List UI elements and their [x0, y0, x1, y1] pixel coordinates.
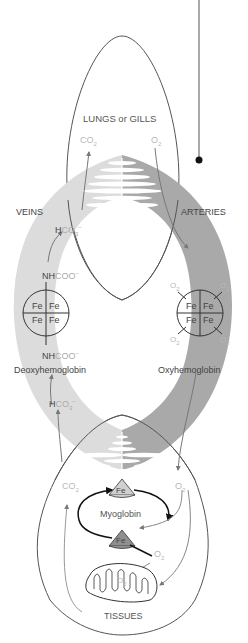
oxyhemoglobin-label: Oxyhemoglobin [158, 366, 221, 375]
oxy-o2-br: O2 [220, 336, 230, 346]
oxy-o2-tr: O2 [220, 282, 230, 292]
o2-free-label: O2 [154, 550, 164, 561]
o2-tissues-label: O2 [175, 482, 185, 493]
veins-label: VEINS [16, 208, 43, 217]
oxy-fe-bl: Fe [186, 316, 197, 325]
myo-fe-top-label: Fe [116, 487, 125, 495]
myo-fe-bottom-label: Fe [116, 537, 125, 545]
arteries-label: ARTERIES [181, 208, 226, 217]
pointer-dot [196, 157, 203, 164]
oxy-fe-br: Fe [203, 316, 214, 325]
tissues-label: TISSUES [104, 612, 143, 621]
myoglobin-label: Myoglobin [100, 510, 141, 519]
oxy-o2-bl: O2 [170, 336, 180, 346]
co2-lungs-label: CO2 [80, 136, 97, 147]
lungs-label: LUNGS or GILLS [83, 114, 156, 124]
oxyhemoglobin-symbol [177, 290, 223, 336]
hco3-upper-label: HCO3− [55, 224, 82, 237]
o2-mito-label: O2 [117, 577, 127, 587]
deoxyhemoglobin-label: Deoxyhemoglobin [14, 366, 86, 375]
nhcoo-lower-label: NHCOO− [42, 350, 79, 361]
deoxy-fe-bl: Fe [32, 316, 43, 325]
co2-tissues-label: CO2 [62, 482, 79, 493]
hco3-lower-label: HCO3− [49, 398, 76, 411]
nhcoo-upper-label: NHCOO− [42, 270, 79, 281]
o2-lungs-label: O2 [151, 136, 161, 147]
deoxy-fe-tr: Fe [49, 302, 60, 311]
oxy-o2-tl: O2 [170, 282, 180, 292]
deoxy-fe-br: Fe [49, 316, 60, 325]
oxy-fe-tl: Fe [186, 302, 197, 311]
oxy-fe-tr: Fe [203, 302, 214, 311]
deoxy-fe-tl: Fe [32, 302, 43, 311]
